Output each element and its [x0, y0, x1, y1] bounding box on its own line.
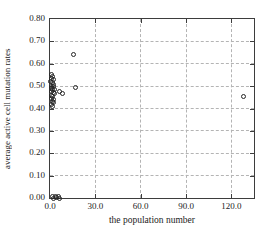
- tick-mark-right: [250, 176, 254, 177]
- tick-mark-top: [141, 19, 142, 23]
- tick-mark-top: [95, 19, 96, 23]
- y-tick-label: 0.70: [4, 36, 45, 45]
- y-tick-label: 0.60: [4, 59, 45, 68]
- tick-mark-top: [231, 19, 232, 23]
- x-axis-label: the population number: [49, 215, 255, 225]
- tick-mark-right: [250, 131, 254, 132]
- y-tick-label: 0.50: [4, 81, 45, 90]
- tick-mark-bottom: [231, 194, 232, 198]
- tick-mark-right: [250, 153, 254, 154]
- x-tick-label: 0.0: [30, 202, 70, 211]
- v-gridline: [95, 19, 96, 198]
- y-tick-label: 0.20: [4, 148, 45, 157]
- y-tick-label: 0.30: [4, 126, 45, 135]
- h-gridline: [50, 130, 254, 131]
- tick-mark-right: [250, 64, 254, 65]
- tick-mark-bottom: [95, 194, 96, 198]
- tick-mark-left: [50, 176, 54, 177]
- h-gridline: [50, 153, 254, 154]
- h-gridline: [50, 41, 254, 42]
- plot-area: [49, 18, 255, 199]
- h-gridline: [50, 108, 254, 109]
- data-point: [57, 196, 62, 201]
- tick-mark-left: [50, 153, 54, 154]
- data-point: [71, 52, 76, 57]
- tick-mark-right: [250, 86, 254, 87]
- v-gridline: [186, 19, 187, 198]
- x-tick-label: 120.0: [211, 202, 251, 211]
- v-gridline: [231, 19, 232, 198]
- tick-mark-right: [250, 41, 254, 42]
- h-gridline: [50, 86, 254, 87]
- data-point: [73, 85, 78, 90]
- scatter-figure: average active cell mutation rates the p…: [0, 0, 275, 238]
- y-tick-label: 0.80: [4, 14, 45, 23]
- tick-mark-left: [50, 64, 54, 65]
- x-tick-label: 60.0: [121, 202, 161, 211]
- h-gridline: [50, 175, 254, 176]
- x-tick-label: 90.0: [166, 202, 206, 211]
- tick-mark-left: [50, 131, 54, 132]
- y-tick-label: 0.40: [4, 104, 45, 113]
- y-tick-label: 0.00: [4, 193, 45, 202]
- x-tick-label: 30.0: [75, 202, 115, 211]
- v-gridline: [140, 19, 141, 198]
- tick-mark-left: [50, 41, 54, 42]
- tick-mark-bottom: [141, 194, 142, 198]
- tick-mark-right: [250, 109, 254, 110]
- tick-mark-top: [186, 19, 187, 23]
- tick-mark-bottom: [186, 194, 187, 198]
- h-gridline: [50, 63, 254, 64]
- data-point: [60, 91, 65, 96]
- y-tick-label: 0.10: [4, 171, 45, 180]
- data-point: [241, 94, 246, 99]
